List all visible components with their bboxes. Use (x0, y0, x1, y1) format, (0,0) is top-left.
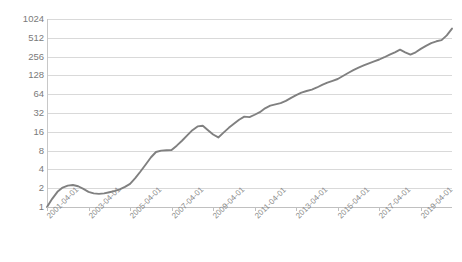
y-axis-tick-label: 1 (0, 201, 44, 212)
y-axis-tick-label: 16 (0, 126, 44, 137)
chart-container: 10245122561286432168421 2001-04-012003-0… (0, 0, 462, 262)
gridline (47, 94, 452, 95)
y-axis-labels: 10245122561286432168421 (0, 0, 44, 262)
gridline (47, 38, 452, 39)
y-axis-tick-label: 128 (0, 69, 44, 80)
y-axis-tick-label: 512 (0, 32, 44, 43)
y-axis-tick-label: 4 (0, 163, 44, 174)
y-axis-tick-label: 64 (0, 88, 44, 99)
y-axis-tick-label: 1024 (0, 13, 44, 24)
y-axis-tick-label: 32 (0, 107, 44, 118)
y-axis-tick-label: 256 (0, 51, 44, 62)
gridline (47, 188, 452, 189)
plot-area (47, 19, 452, 207)
clipped-title-strip (0, 0, 462, 6)
gridline (47, 113, 452, 114)
gridline (47, 169, 452, 170)
y-axis-line (47, 19, 48, 207)
gridline (47, 57, 452, 58)
gridline (47, 19, 452, 20)
gridline (47, 151, 452, 152)
gridline (47, 132, 452, 133)
y-axis-tick-label: 8 (0, 145, 44, 156)
gridline (47, 75, 452, 76)
y-axis-tick-label: 2 (0, 182, 44, 193)
